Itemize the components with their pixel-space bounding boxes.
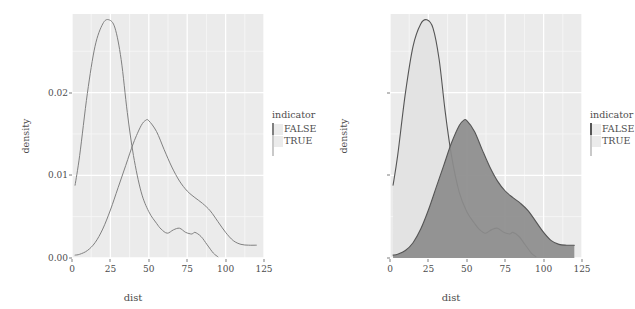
y-axis-title-left: density [20,119,31,154]
x-tick-label: 125 [573,264,590,274]
legend-right: indicator FALSE TRUE [590,109,634,147]
y-tick-label: 0.02 [48,88,68,98]
y-tick-label: 0.00 [48,253,68,263]
x-tick-label: 125 [255,264,272,274]
legend-title-left: indicator [272,109,316,120]
legend-title-right: indicator [590,109,634,120]
legend-key-false-icon-left [272,124,283,135]
plot-panel-right: density dist 0.000.010.02 0255075100125 … [318,0,635,309]
x-axis-title-left: dist [124,292,143,303]
figure-density-plots: density dist 0.000.010.02 0255075100125 … [0,0,635,309]
x-tick-mark [225,259,226,262]
y-tick-mark [69,92,72,93]
x-tick-label: 100 [217,264,234,274]
legend-key-true-icon-left [272,136,283,147]
y-tick-label: 0.01 [48,170,68,180]
x-tick-label: 50 [461,264,472,274]
panel-area-left [72,14,264,258]
y-tick-mark [69,175,72,176]
x-tick-mark [505,259,506,262]
x-tick-mark [187,259,188,262]
x-tick-mark [582,259,583,262]
legend-item-true-right[interactable]: TRUE [590,135,634,147]
x-tick-label: 50 [143,264,154,274]
x-tick-mark [428,259,429,262]
x-tick-mark [148,259,149,262]
legend-label-true-right: TRUE [602,136,630,146]
x-tick-label: 25 [105,264,116,274]
panel-area-right [390,14,582,258]
y-tick-mark [387,92,390,93]
y-axis-title-right: density [338,119,349,154]
x-tick-mark [72,259,73,262]
legend-item-false-left[interactable]: FALSE [272,123,316,135]
x-tick-mark [390,259,391,262]
x-tick-mark [466,259,467,262]
x-tick-mark [110,259,111,262]
legend-label-true-left: TRUE [284,136,312,146]
legend-label-false-right: FALSE [602,124,634,134]
y-tick-mark [387,175,390,176]
x-tick-label: 0 [387,264,393,274]
x-axis-title-left-wrap: dist [24,292,242,303]
legend-left: indicator FALSE TRUE [272,109,316,147]
x-tick-mark [543,259,544,262]
x-axis-title-right: dist [442,292,461,303]
x-tick-label: 100 [535,264,552,274]
legend-key-true-icon-right [590,136,601,147]
x-tick-label: 75 [181,264,192,274]
legend-key-false-icon-right [590,124,601,135]
legend-item-false-right[interactable]: FALSE [590,123,634,135]
x-tick-label: 75 [499,264,510,274]
legend-label-false-left: FALSE [284,124,316,134]
x-tick-label: 0 [69,264,75,274]
x-tick-mark [264,259,265,262]
legend-item-true-left[interactable]: TRUE [272,135,316,147]
x-axis-title-right-wrap: dist [342,292,560,303]
x-tick-label: 25 [423,264,434,274]
